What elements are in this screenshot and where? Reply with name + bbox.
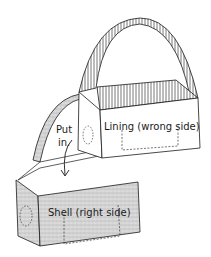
put-in-label-line2: in. xyxy=(58,137,70,148)
lining-label: Lining (wrong side) xyxy=(104,121,200,132)
shell-label: Shell (right side) xyxy=(48,207,131,218)
lining-into-shell-diagram: Shell (right side) Lining (wrong side) P… xyxy=(0,0,211,257)
put-in-label-line1: Put xyxy=(56,124,72,135)
lining-side-panel xyxy=(78,92,102,158)
lining-bag: Lining (wrong side) xyxy=(78,18,200,158)
shell-side-panel xyxy=(16,180,40,246)
